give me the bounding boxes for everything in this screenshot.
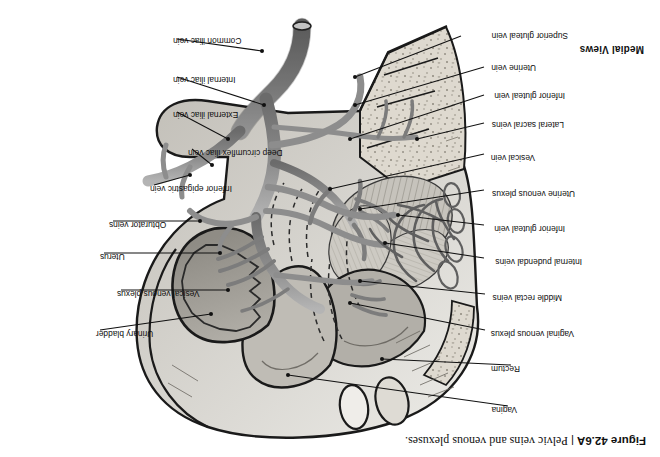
label-uterine-venous-plexus: Uterine venous plexus <box>492 189 575 198</box>
leader-dot-external-iliac-vein <box>226 137 230 141</box>
leader-dot-inferior-gluteal-vein-2 <box>348 137 352 141</box>
leader-dot-internal-pudendal-veins <box>383 241 387 245</box>
inferior-epigastric-vein-vessel <box>163 145 166 177</box>
leader-dot-superior-gluteal-vein <box>353 75 357 79</box>
label-uterine-vein: Uterine vein <box>491 63 536 72</box>
leader-dot-vesical-vein <box>328 187 332 191</box>
label-common-iliac-vein: Common iliac vein <box>173 36 241 45</box>
label-urinary-bladder: Urinary bladder <box>96 329 153 338</box>
leader-dot-uterine-vein <box>353 103 357 107</box>
common-iliac-cut-end <box>293 22 311 30</box>
leader-dot-uterine-venous-plexus <box>358 207 362 211</box>
leader-dot-urinary-bladder <box>209 312 213 316</box>
leader-dot-vagina <box>286 373 290 377</box>
label-inferior-epigastric-vein: Inferior epigastric vein <box>150 184 232 193</box>
label-internal-iliac-vein: Internal iliac vein <box>173 75 235 84</box>
label-middle-rectal-veins: Middle rectal veins <box>493 293 562 302</box>
leader-dot-deep-circumflex-iliac-vein <box>210 163 214 167</box>
leader-dot-middle-rectal-veins <box>358 279 362 283</box>
label-inferior-gluteal-vein-2: Inferior gluteal vein <box>494 91 565 100</box>
label-superior-gluteal-vein: Superior gluteal vein <box>492 31 568 40</box>
leader-dot-vaginal-venous-plexus <box>348 301 352 305</box>
label-internal-pudendal-veins: Internal pudendal veins <box>495 257 582 266</box>
leader-dot-rectum <box>380 357 384 361</box>
leader-dot-common-iliac-vein <box>260 49 264 53</box>
leader-dot-vesical-venous-plexus <box>226 288 230 292</box>
label-vagina: Vagina <box>492 405 517 414</box>
leader-dot-inferior-epigastric-vein <box>188 173 192 177</box>
label-vesical-venous-plexus: Vesical venous plexus <box>117 289 199 298</box>
label-deep-circumflex-iliac-vein: Deep circumflex iliac vein <box>188 148 283 157</box>
leader-dot-uterus <box>218 251 222 255</box>
figure-plate: Figure 42.6A|Pelvic veins and venous ple… <box>0 0 660 457</box>
label-vaginal-venous-plexus: Vaginal venous plexus <box>491 329 574 338</box>
leader-dot-inferior-gluteal-vein-1 <box>396 213 400 217</box>
label-uterus: Uterus <box>100 252 125 261</box>
label-lateral-sacral-veins: Lateral sacral veins <box>492 120 564 129</box>
leader-dot-obturator-veins <box>198 219 202 223</box>
label-obturator-veins: Obturator veins <box>109 220 166 229</box>
label-rectum: Rectum <box>491 364 520 373</box>
label-external-iliac-vein: External iliac vein <box>173 110 238 119</box>
label-inferior-gluteal-vein-1: Inferior gluteal vein <box>494 224 565 233</box>
label-vesical-vein: Vesical vein <box>491 153 535 162</box>
leader-dot-lateral-sacral-veins <box>415 137 419 141</box>
leader-dot-internal-iliac-vein <box>262 103 266 107</box>
